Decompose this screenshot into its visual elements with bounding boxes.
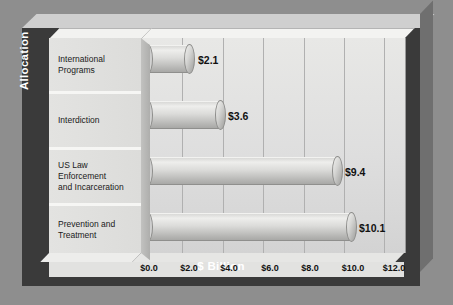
- category-text: US Law: [58, 160, 124, 171]
- x-tick-12: $12.0: [383, 263, 406, 273]
- plot-area: International Programs Interdiction US L…: [37, 20, 413, 272]
- frame-right-bevel: [420, 1, 433, 272]
- bar-cap-right: [215, 100, 226, 130]
- bar-value-label-prevention-and-treatment: $10.1: [359, 222, 385, 234]
- bar-interdiction[interactable]: [147, 101, 220, 129]
- bar-prevention-and-treatment[interactable]: [147, 213, 351, 241]
- bar-value-label-interdiction: $3.6: [228, 110, 248, 122]
- category-label-us-law-enforcement-and-incarceration: US Law Enforcement and Incarceration: [49, 150, 141, 203]
- bar-value-label-us-law-enforcement: $9.4: [345, 166, 365, 178]
- gridline-12: [384, 38, 385, 253]
- x-tick-2: $2.0: [180, 263, 198, 273]
- y-axis-title: Allocation: [18, 31, 30, 90]
- category-label-prevention-and-treatment: Prevention and Treatment: [49, 206, 141, 253]
- category-text: Interdiction: [58, 115, 100, 126]
- category-text: Treatment: [58, 230, 115, 241]
- category-text: International: [58, 54, 105, 65]
- category-panel-edge: [141, 38, 150, 260]
- bar-body: [147, 213, 351, 241]
- x-tick-6: $6.0: [261, 263, 279, 273]
- bar-body: [147, 45, 189, 73]
- category-text: and Incarceration: [58, 182, 124, 193]
- bar-cap-right: [332, 156, 343, 186]
- bar-international-programs[interactable]: [147, 45, 189, 73]
- bar-value-label-international-programs: $2.1: [198, 54, 218, 66]
- bar-body: [147, 101, 220, 129]
- category-label-interdiction: Interdiction: [49, 94, 141, 147]
- x-tick-10: $10.0: [342, 263, 365, 273]
- category-text: Prevention and: [58, 219, 115, 230]
- bar-cap-right: [346, 212, 357, 242]
- category-panel: International Programs Interdiction US L…: [49, 38, 141, 253]
- category-label-international-programs: International Programs: [49, 38, 141, 91]
- category-text: Enforcement: [58, 171, 124, 182]
- x-tick-0: $0.0: [140, 263, 158, 273]
- x-tick-4: $4.0: [220, 263, 238, 273]
- bar-body: [147, 157, 337, 185]
- x-tick-8: $8.0: [301, 263, 319, 273]
- category-text: Programs: [58, 65, 105, 76]
- bar-us-law-enforcement-and-incarceration[interactable]: [147, 157, 337, 185]
- chart-screenshot: International Programs Interdiction US L…: [0, 0, 453, 305]
